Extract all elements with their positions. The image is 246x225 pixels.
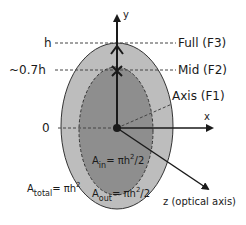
y-axis-label: y bbox=[123, 10, 129, 20]
level-0-label: 0 bbox=[42, 122, 50, 134]
axis-f1-label: Axis (F1) bbox=[172, 90, 225, 102]
area-inner-tail: /2 bbox=[135, 155, 145, 166]
full-f3-label: Full (F3) bbox=[178, 37, 226, 49]
mid-f2-label: Mid (F2) bbox=[178, 64, 227, 76]
area-inner-exp: 2 bbox=[130, 153, 134, 161]
area-inner-subscript: in bbox=[99, 161, 106, 170]
area-outer-label: Aout= πh2/2 bbox=[92, 189, 150, 199]
area-total-label: Atotal= πh2 bbox=[27, 184, 81, 194]
area-inner-eq: = πh bbox=[106, 155, 130, 166]
area-outer-tail: /2 bbox=[140, 188, 150, 199]
level-07h-label: ~0.7h bbox=[9, 64, 46, 76]
beam-cross-section-diagram: y x z (optical axis) h ~0.7h 0 Full (F3)… bbox=[0, 0, 246, 225]
area-total-exp: 2 bbox=[76, 181, 80, 189]
area-outer-eq: = πh bbox=[112, 188, 136, 199]
area-total-eq: = πh bbox=[52, 183, 76, 194]
area-total-subscript: total bbox=[34, 189, 52, 198]
area-total-symbol: A bbox=[27, 183, 34, 194]
area-outer-exp: 2 bbox=[136, 186, 140, 194]
z-axis-label: z (optical axis) bbox=[163, 197, 236, 207]
level-h-label: h bbox=[44, 37, 52, 49]
x-axis-label: x bbox=[204, 112, 210, 122]
area-inner-symbol: A bbox=[92, 155, 99, 166]
area-outer-symbol: A bbox=[92, 188, 99, 199]
origin-dot bbox=[113, 124, 121, 132]
area-inner-label: Ain= πh2/2 bbox=[92, 156, 144, 166]
area-outer-subscript: out bbox=[99, 194, 112, 203]
